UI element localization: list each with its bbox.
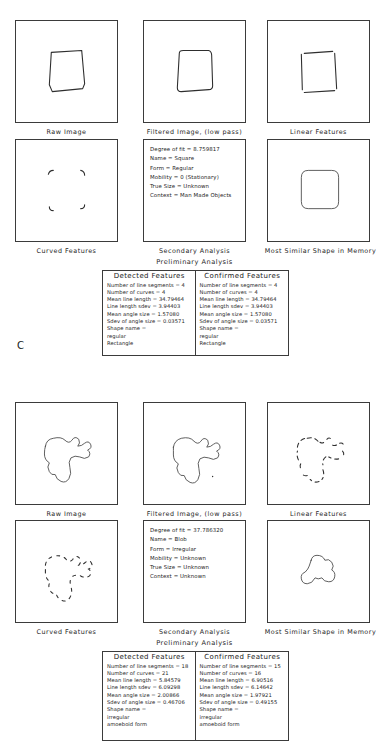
feature-line: Rectangle <box>200 340 286 347</box>
confirmed-features-column-square: Confirmed Features Number of line segmen… <box>196 271 289 355</box>
feature-line: Sdev of angle size = 0.03571 <box>200 318 286 325</box>
feature-line: Line length sdev = 3.94403 <box>200 303 286 310</box>
caption-most-similar-shape-square: Most Similar Shape in Memory <box>255 247 386 255</box>
feature-line: Number of line segments = 4 <box>200 282 286 289</box>
filtered-image-box-square <box>143 20 246 123</box>
analysis-panel-square: Raw Image Filtered Image, (low pass) Lin… <box>0 0 390 380</box>
caption-secondary-analysis-blob: Secondary Analysis <box>143 628 246 636</box>
square-memory-shape <box>268 140 369 241</box>
features-table-square: Detected Features Number of line segment… <box>102 270 289 356</box>
column-header: Confirmed Features <box>200 653 286 661</box>
feature-line: Mean angle size = 1.97921 <box>200 692 286 699</box>
feature-line: amoeboid form <box>107 721 192 728</box>
square-raw-shape <box>16 21 117 122</box>
column-header: Detected Features <box>107 272 192 280</box>
linear-features-box-square <box>267 20 370 123</box>
feature-line: Mean line length = 34.79464 <box>107 296 192 303</box>
feature-line: Number of line segments = 18 <box>107 663 192 670</box>
feature-line: regular <box>107 333 192 340</box>
raw-image-box-square <box>15 20 118 123</box>
analysis-line: Context = Unknown <box>150 572 240 581</box>
blob-filtered-shape <box>144 403 245 504</box>
curved-features-box-blob <box>15 520 118 623</box>
preliminary-analysis-label-square: Preliminary Analysis <box>143 258 246 266</box>
feature-line: Sdev of angle size = 0.46706 <box>107 699 192 706</box>
feature-line: Number of line segments = 15 <box>200 663 286 670</box>
feature-line: Number of curves = 21 <box>107 670 192 677</box>
feature-line: Mean line length = 34.79464 <box>200 296 286 303</box>
analysis-line: Degree of fit = 37.786320 <box>150 526 240 535</box>
feature-line: Rectangle <box>107 340 192 347</box>
feature-line: Shape name = <box>200 706 286 713</box>
analysis-line: True Size = Unknown <box>150 182 240 191</box>
caption-curved-features-blob: Curved Features <box>15 628 118 636</box>
feature-line: Mean line length = 5.84579 <box>107 677 192 684</box>
confirmed-features-column-blob: Confirmed Features Number of line segmen… <box>196 652 289 740</box>
caption-raw-image-square: Raw Image <box>15 128 118 136</box>
detected-features-column-square: Detected Features Number of line segment… <box>103 271 196 355</box>
filtered-image-box-blob <box>143 402 246 505</box>
caption-most-similar-shape-blob: Most Similar Shape in Memory <box>255 628 386 636</box>
caption-filtered-image-blob: Filtered Image, (low pass) <box>133 510 256 518</box>
detected-features-column-blob: Detected Features Number of line segment… <box>103 652 196 740</box>
curved-features-box-square <box>15 139 118 242</box>
analysis-line: Context = Man Made Objects <box>150 191 240 200</box>
analysis-line: Form = Regular <box>150 164 240 173</box>
square-filtered-shape <box>144 21 245 122</box>
feature-line: Number of curves = 4 <box>200 289 286 296</box>
feature-line: Line length sdev = 3.94403 <box>107 303 192 310</box>
secondary-analysis-box-square: Degree of fit = 8.759817 Name = Square F… <box>143 139 246 242</box>
caption-linear-features-square: Linear Features <box>267 128 370 136</box>
caption-curved-features-square: Curved Features <box>15 247 118 255</box>
most-similar-shape-box-square <box>267 139 370 242</box>
analysis-line: True Size = Unknown <box>150 563 240 572</box>
blob-curved-shape <box>16 521 117 622</box>
feature-line: Mean angle size = 1.57080 <box>200 311 286 318</box>
feature-line: Line length sdev = 6.09298 <box>107 684 192 691</box>
feature-line: irregular <box>200 714 286 721</box>
secondary-analysis-box-blob: Degree of fit = 37.786320 Name = Blob Fo… <box>143 520 246 623</box>
feature-line: Number of curves = 16 <box>200 670 286 677</box>
feature-line: Sdev of angle size = 0.03571 <box>107 318 192 325</box>
feature-line: amoeboid form <box>200 721 286 728</box>
analysis-line: Name = Square <box>150 154 240 163</box>
caption-filtered-image-square: Filtered Image, (low pass) <box>133 128 256 136</box>
feature-line: Number of line segments = 4 <box>107 282 192 289</box>
preliminary-analysis-label-blob: Preliminary Analysis <box>143 639 246 647</box>
analysis-line: Name = Blob <box>150 535 240 544</box>
analysis-panel-blob: Raw Image Filtered Image, (low pass) Lin… <box>0 380 390 756</box>
caption-secondary-analysis-square: Secondary Analysis <box>143 247 246 255</box>
feature-line: Shape name = <box>107 325 192 332</box>
feature-line: irregular <box>107 714 192 721</box>
feature-line: Mean angle size = 2.00866 <box>107 692 192 699</box>
feature-line: Number of curves = 4 <box>107 289 192 296</box>
feature-line: Mean angle size = 1.57080 <box>107 311 192 318</box>
square-curved-shape <box>16 140 117 241</box>
most-similar-shape-box-blob <box>267 520 370 623</box>
blob-memory-shape <box>268 521 369 622</box>
caption-linear-features-blob: Linear Features <box>267 510 370 518</box>
analysis-line: Form = Irregular <box>150 545 240 554</box>
feature-line: Sdev of angle size = 0.49155 <box>200 699 286 706</box>
blob-raw-shape <box>16 403 117 504</box>
linear-features-box-blob <box>267 402 370 505</box>
analysis-line: Mobility = 0 (Stationary) <box>150 173 240 182</box>
column-header: Confirmed Features <box>200 272 286 280</box>
raw-image-box-blob <box>15 402 118 505</box>
analysis-line: Mobility = Unknown <box>150 554 240 563</box>
feature-line: Shape name = <box>200 325 286 332</box>
square-linear-shape <box>268 21 369 122</box>
blob-linear-shape <box>268 403 369 504</box>
caption-raw-image-blob: Raw Image <box>15 510 118 518</box>
figure-letter-c: C <box>17 340 24 351</box>
feature-line: regular <box>200 333 286 340</box>
column-header: Detected Features <box>107 653 192 661</box>
analysis-line: Degree of fit = 8.759817 <box>150 145 240 154</box>
feature-line: Mean line length = 6.90516 <box>200 677 286 684</box>
feature-line: Line length sdev = 6.14642 <box>200 684 286 691</box>
features-table-blob: Detected Features Number of line segment… <box>102 651 289 741</box>
feature-line: Shape name = <box>107 706 192 713</box>
